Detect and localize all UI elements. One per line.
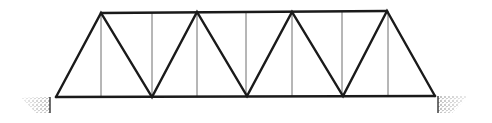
- truss-bridge-diagram: [0, 0, 492, 123]
- right-abutment: [438, 96, 468, 113]
- top-chord: [101, 11, 387, 13]
- left-abutment: [22, 97, 50, 113]
- bottom-chord: [56, 96, 435, 97]
